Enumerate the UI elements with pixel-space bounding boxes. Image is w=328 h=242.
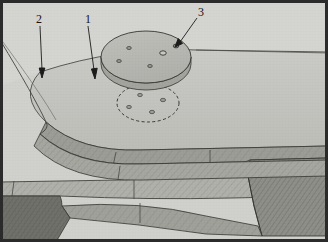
shadow-corner-hatch bbox=[0, 196, 70, 242]
callout-label-3: 3 bbox=[198, 6, 204, 18]
callout-label-1: 1 bbox=[85, 13, 91, 25]
figure-canvas: 2 1 3 bbox=[0, 0, 328, 242]
technical-illustration bbox=[0, 0, 328, 242]
upper-disc-face bbox=[101, 31, 191, 83]
callout-label-2: 2 bbox=[36, 13, 42, 25]
